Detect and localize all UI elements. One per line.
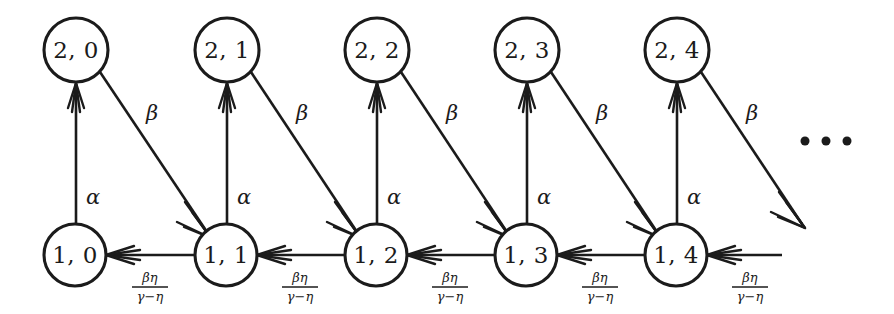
alpha-label: α	[86, 185, 100, 209]
beta-edge-4: β	[701, 72, 805, 228]
ellipsis-icon	[801, 137, 852, 146]
node-label: 1, 1	[203, 242, 249, 268]
ellipsis-dot	[822, 137, 831, 146]
node-label: 2, 0	[53, 37, 99, 63]
node-label: 1, 0	[52, 242, 98, 268]
node-1-3[interactable]: 1, 3	[495, 224, 557, 286]
node-2-2[interactable]: 2, 2	[345, 18, 409, 82]
node-label: 2, 4	[654, 37, 700, 63]
fraction-numerator: βη	[141, 270, 158, 285]
node-2-1[interactable]: 2, 1	[195, 18, 259, 82]
beta-label: β	[295, 101, 308, 125]
fraction-numerator: βη	[291, 270, 308, 285]
beta-label: β	[145, 101, 158, 125]
alpha-label: α	[537, 185, 551, 209]
fraction-numerator: βη	[591, 270, 608, 285]
fraction-denominator: γ−η	[287, 289, 314, 304]
node-label: 1, 4	[653, 242, 699, 268]
alpha-edge-2: α	[369, 83, 401, 224]
beta-edge-3: β	[551, 72, 661, 238]
alpha-edge-0: α	[68, 83, 100, 224]
horizontal-edge-0: βη γ−η	[106, 246, 195, 304]
node-1-0[interactable]: 1, 0	[44, 224, 106, 286]
node-2-4[interactable]: 2, 4	[645, 18, 709, 82]
node-1-4[interactable]: 1, 4	[645, 224, 707, 286]
alpha-label: α	[687, 185, 701, 209]
beta-edges-group: β β β β	[100, 72, 805, 238]
fraction-numerator: βη	[441, 270, 458, 285]
node-label: 2, 3	[504, 37, 550, 63]
ellipsis-dot	[843, 137, 852, 146]
fraction-denominator: γ−η	[437, 289, 464, 304]
node-2-3[interactable]: 2, 3	[495, 18, 559, 82]
node-label: 2, 2	[354, 37, 400, 63]
beta-edge-0: β	[100, 72, 211, 238]
node-label: 1, 3	[503, 242, 549, 268]
beta-edge-line	[551, 72, 659, 235]
state-transition-diagram: α α α α	[0, 0, 894, 314]
horizontal-edge-4: βη γ−η	[707, 246, 782, 304]
beta-edge-1: β	[251, 72, 361, 238]
node-label: 2, 1	[204, 37, 250, 63]
alpha-edge-1: α	[219, 83, 251, 224]
fraction-denominator: γ−η	[587, 289, 614, 304]
beta-label: β	[745, 101, 758, 125]
beta-edge-2: β	[401, 72, 511, 238]
diagram-canvas: α α α α	[0, 0, 894, 314]
beta-edge-line	[401, 72, 509, 235]
horizontal-edge-3: βη γ−η	[557, 246, 645, 304]
node-1-1[interactable]: 1, 1	[195, 224, 257, 286]
alpha-label: α	[237, 185, 251, 209]
ellipsis-dot	[801, 137, 810, 146]
alpha-edge-4: α	[669, 83, 701, 224]
beta-label: β	[445, 101, 458, 125]
alpha-edge-3: α	[519, 83, 551, 224]
horizontal-edge-2: βη γ−η	[407, 246, 495, 304]
node-2-0[interactable]: 2, 0	[44, 18, 108, 82]
beta-edge-line	[251, 72, 359, 235]
fraction-denominator: γ−η	[137, 289, 164, 304]
fraction-numerator: βη	[741, 270, 758, 285]
node-label: 1, 2	[353, 242, 399, 268]
beta-label: β	[595, 101, 608, 125]
node-1-2[interactable]: 1, 2	[345, 224, 407, 286]
fraction-denominator: γ−η	[737, 289, 764, 304]
alpha-label: α	[387, 185, 401, 209]
horizontal-edge-1: βη γ−η	[257, 246, 345, 304]
